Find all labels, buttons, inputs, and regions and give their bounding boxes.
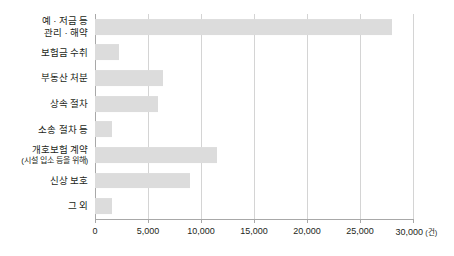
x-axis-tick-label: 20,000 (293, 226, 321, 236)
category-label: 개호보험 계약(시설 입소 등을 위해) (0, 144, 95, 166)
bar (95, 198, 112, 214)
category-label: 신상 보호 (0, 175, 95, 187)
x-axis-tick (413, 219, 414, 223)
axis-unit-label: (건) (423, 228, 437, 237)
category-label: 예 · 저금 등 관리 · 해약 (0, 15, 95, 38)
x-axis-tick (148, 219, 149, 223)
bar-track (95, 168, 454, 194)
bar (95, 45, 119, 61)
category-sublabel: (시설 입소 등을 위해) (0, 156, 88, 166)
x-axis-tick-label: 15,000 (240, 226, 268, 236)
bar-row: 소송 절차 등 (0, 117, 454, 143)
bar (95, 173, 190, 189)
bar-row: 예 · 저금 등 관리 · 해약 (0, 14, 454, 40)
bar-row: 보험금 수취 (0, 40, 454, 66)
category-label: 부동산 처분 (0, 72, 95, 84)
bar-rows: 예 · 저금 등 관리 · 해약보험금 수취부동산 처분상속 절차소송 절차 등… (0, 14, 454, 219)
bar-row: 그 외 (0, 193, 454, 219)
bar-chart: 예 · 저금 등 관리 · 해약보험금 수취부동산 처분상속 절차소송 절차 등… (0, 0, 454, 256)
x-axis-tick (201, 219, 202, 223)
bar-row: 상속 절차 (0, 91, 454, 117)
x-axis-tick-label: 10,000 (187, 226, 215, 236)
bar-row: 부동산 처분 (0, 65, 454, 91)
bar-row: 개호보험 계약(시설 입소 등을 위해) (0, 142, 454, 168)
x-axis-tick-label: 5,000 (137, 226, 160, 236)
category-label: 그 외 (0, 200, 95, 212)
x-axis-tick (254, 219, 255, 223)
bar-track (95, 14, 454, 40)
bar-track (95, 65, 454, 91)
bar (95, 96, 158, 112)
bar-track (95, 40, 454, 66)
x-axis-tick (360, 219, 361, 223)
x-axis-tick (307, 219, 308, 223)
bar-track (95, 193, 454, 219)
x-axis-tick-label: 25,000 (346, 226, 374, 236)
bar-track (95, 117, 454, 143)
bar (95, 70, 163, 86)
bar (95, 19, 392, 35)
bar (95, 147, 217, 163)
x-axis-tick (95, 219, 96, 223)
bar-track (95, 142, 454, 168)
category-label: 상속 절차 (0, 98, 95, 110)
x-axis-tick-label: 0 (92, 226, 97, 236)
bar (95, 121, 112, 137)
category-label: 소송 절차 등 (0, 124, 95, 136)
bar-row: 신상 보호 (0, 168, 454, 194)
category-label: 보험금 수취 (0, 47, 95, 59)
x-axis-tick-label: 30,000 (건) (396, 226, 438, 237)
bar-track (95, 91, 454, 117)
